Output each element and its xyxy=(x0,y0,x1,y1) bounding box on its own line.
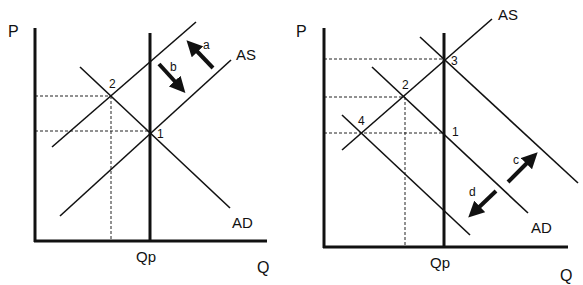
right-point-2: 2 xyxy=(402,78,409,92)
right-x-axis-label: Q xyxy=(560,267,572,284)
right-as-label: AS xyxy=(498,6,518,23)
left-as-curve xyxy=(60,60,231,216)
left-arrow-b-label: b xyxy=(170,60,177,74)
left-as-label: AS xyxy=(236,46,256,63)
left-x-axis-label: Q xyxy=(257,259,269,276)
left-point-2: 2 xyxy=(109,77,116,91)
left-as-curve-shifted xyxy=(52,22,196,147)
right-y-axis-label: P xyxy=(296,23,307,40)
left-y-axis-label: P xyxy=(8,23,19,40)
right-qp-label: Qp xyxy=(430,254,450,271)
left-ad-curve xyxy=(80,67,230,208)
right-point-3: 3 xyxy=(451,54,458,68)
left-panel: P Q Qp AS AD 2 1 a b xyxy=(8,22,269,276)
right-point-1: 1 xyxy=(452,125,459,139)
right-arrow-c-label: c xyxy=(513,153,519,167)
right-panel: P Q Qp AS AD 1 2 3 4 c d xyxy=(296,6,578,284)
right-ad-label: AD xyxy=(531,219,552,236)
left-point-1: 1 xyxy=(157,127,164,141)
right-dashed-guides xyxy=(324,59,444,247)
left-ad-label: AD xyxy=(232,214,253,231)
left-dashed-guides xyxy=(35,96,150,241)
right-arrow-d-label: d xyxy=(469,185,476,199)
left-qp-label: Qp xyxy=(136,248,156,265)
right-ad-curve xyxy=(372,67,528,213)
arrow-c-icon xyxy=(508,158,532,182)
right-point-4: 4 xyxy=(358,114,365,128)
right-as-curve xyxy=(342,19,492,150)
arrow-d-icon xyxy=(474,191,496,212)
left-arrow-a-label: a xyxy=(203,38,210,52)
